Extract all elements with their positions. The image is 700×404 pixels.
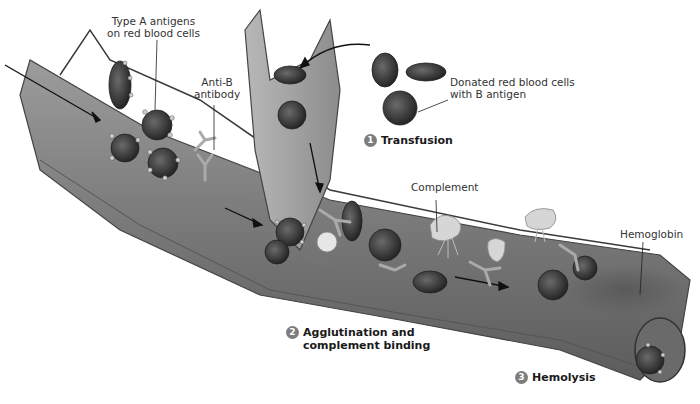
step-number-badge: 2	[286, 326, 299, 339]
label-donated-cells: Donated red blood cells with B antigen	[450, 76, 575, 100]
step-number-badge: 1	[364, 134, 377, 147]
step-label: Agglutination and complement binding	[303, 326, 430, 352]
step-1-transfusion: 1 Transfusion	[364, 134, 453, 147]
label-anti-b-antibody: Anti-B antibody	[194, 76, 240, 100]
step-2-agglutination: 2 Agglutination and complement binding	[286, 326, 430, 352]
label-type-a-antigens: Type A antigens on red blood cells	[107, 15, 200, 39]
diagram-canvas: Type A antigens on red blood cells Anti-…	[0, 0, 700, 404]
label-complement: Complement	[411, 181, 479, 193]
step-label: Transfusion	[381, 134, 453, 147]
step-3-hemolysis: 3 Hemolysis	[515, 371, 596, 384]
step-number-badge: 3	[515, 371, 528, 384]
step-label: Hemolysis	[532, 371, 596, 384]
label-hemoglobin: Hemoglobin	[620, 228, 683, 240]
